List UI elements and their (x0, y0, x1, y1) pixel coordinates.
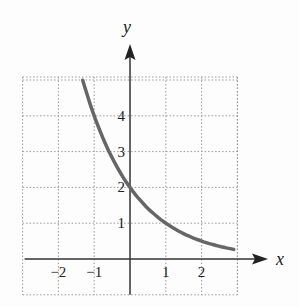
x-tick-label: 2 (198, 264, 206, 280)
y-tick-label: 1 (118, 215, 126, 231)
y-tick-label: 2 (118, 179, 126, 195)
exponential-decay-curve (83, 80, 234, 249)
x-tick-label: −2 (50, 264, 66, 280)
x-axis-label: x (275, 249, 284, 269)
y-tick-label: 3 (118, 144, 126, 160)
x-tick-label: 1 (162, 264, 170, 280)
axes (25, 44, 268, 295)
y-tick-label: 4 (118, 108, 126, 124)
tick-labels: −2−1121234 (50, 108, 205, 280)
x-tick-label: −1 (86, 264, 102, 280)
y-axis-label: y (121, 17, 131, 37)
chart: −2−1121234 x y (0, 0, 299, 307)
